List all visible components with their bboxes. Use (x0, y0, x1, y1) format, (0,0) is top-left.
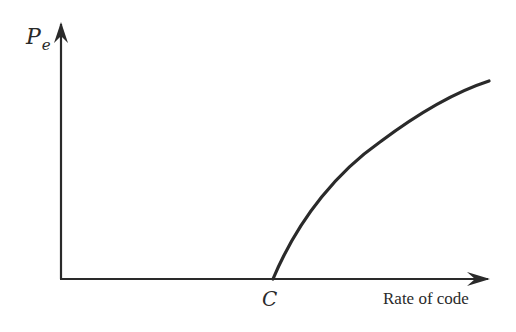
x-axis-label: Rate of code (383, 289, 469, 309)
plot-area (0, 0, 516, 332)
y-axis-label-subscript: e (42, 36, 51, 54)
y-axis-label-main: P (26, 24, 41, 49)
y-axis-label: Pe (26, 24, 50, 49)
pe-vs-rate-diagram: Pe C Rate of code (0, 0, 516, 332)
capacity-label: C (262, 287, 277, 311)
pe-curve (273, 81, 489, 279)
